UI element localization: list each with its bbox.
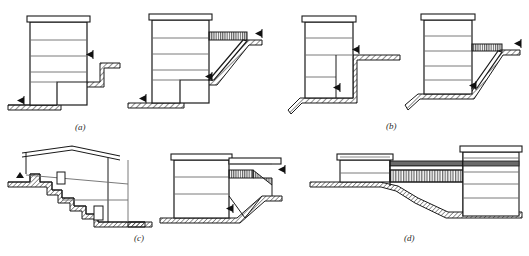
panel-d-figure (310, 146, 522, 218)
level-marker-icon (278, 166, 285, 173)
panel-c-figure-middle (160, 154, 285, 223)
bridge-deck-b-right (472, 44, 502, 51)
roof-slab-wing-c-middle (229, 158, 281, 164)
bridge-deck-a-right (209, 32, 247, 40)
panel-b-figure-right (405, 14, 521, 110)
roof-slab-b-right (421, 14, 475, 20)
level-marker-icon (514, 40, 521, 47)
panel-c-figure-left (8, 146, 152, 227)
panel-caption-a: (a) (75, 122, 86, 132)
opening-lower-c-left (94, 206, 103, 220)
level-marker-icon (16, 172, 24, 178)
opening-upper-c-left (57, 172, 65, 184)
terrain-steps-c-left (8, 174, 145, 222)
level-marker-icon (139, 95, 146, 102)
building-body-a-left (30, 22, 87, 105)
level-marker-icon (17, 97, 24, 104)
roof-slab-b-left (302, 16, 356, 22)
level-marker-icon (255, 30, 262, 37)
bridge-mid-band-d (390, 166, 463, 170)
building-body-c-middle (174, 160, 229, 218)
floor-band-d-right (463, 161, 519, 166)
panel-caption-c: (c) (134, 233, 144, 243)
ground-right-c-left (128, 222, 152, 227)
building-body-b-left (305, 22, 353, 98)
ramp-a-right (209, 40, 247, 80)
panel-a-figure-right (128, 14, 262, 108)
panel-caption-d: (d) (404, 233, 415, 243)
panel-a-figure-left (8, 16, 120, 110)
panel-b-figure-left (288, 16, 400, 114)
building-body-b-right (424, 20, 472, 94)
bridge-hatched-span-d (390, 170, 463, 182)
figure-container: (a) (b) (c) (d) (0, 0, 529, 256)
panel-caption-b: (b) (386, 121, 397, 131)
roof-slab-a-left (27, 16, 90, 22)
roof-slab-a-right (149, 14, 212, 20)
deck-incline-c-middle (253, 170, 272, 185)
roof-slab-d-right (460, 146, 522, 152)
bridge-top-band-d (390, 161, 463, 166)
roof-slab-c-middle (171, 154, 232, 160)
pitched-roof-underside-c-left (22, 150, 120, 160)
bridge-deck-c-middle (229, 170, 253, 178)
building-body-d-left (340, 160, 390, 182)
